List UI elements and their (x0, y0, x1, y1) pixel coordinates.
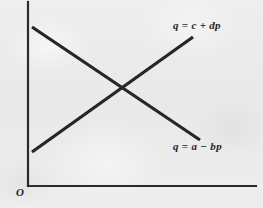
origin-label: O (16, 186, 24, 198)
supply-curve (32, 37, 193, 152)
demand-curve-label: q = a − bp (173, 140, 222, 152)
demand-curve (32, 27, 200, 140)
axes-group (28, 2, 256, 186)
supply-demand-figure: q = c + dp q = a − bp O (0, 0, 263, 208)
plot-canvas (0, 0, 263, 208)
supply-curve-label: q = c + dp (173, 19, 221, 31)
